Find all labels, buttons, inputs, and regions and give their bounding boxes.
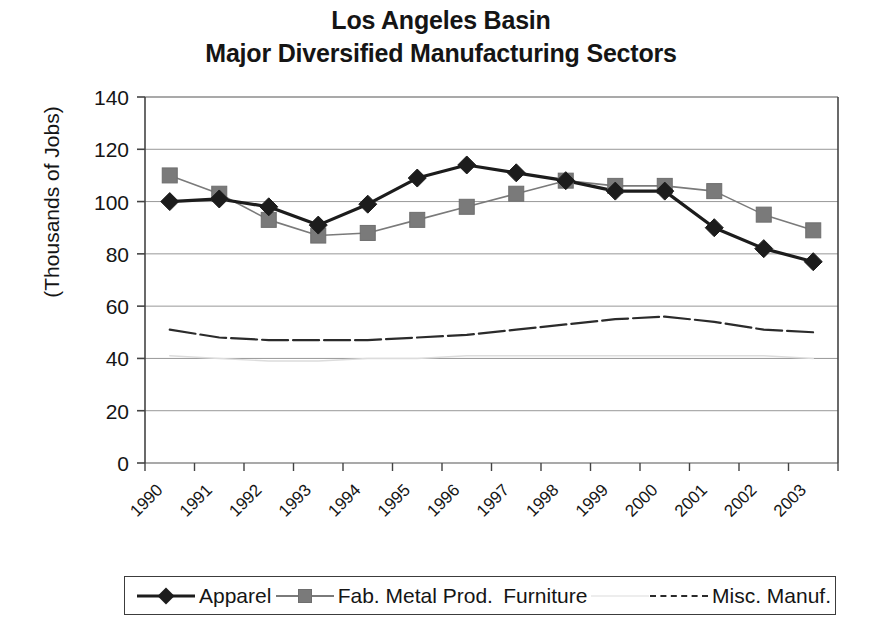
- faint-line-marker-icon: [591, 587, 649, 605]
- data-point-marker: [507, 164, 525, 182]
- x-axis-tick-label: 1995: [374, 480, 414, 520]
- y-axis-tick-label: 40: [106, 347, 129, 370]
- x-axis-tick-label: 2001: [671, 480, 711, 520]
- chart-container: Los Angeles Basin Major Diversified Manu…: [0, 0, 882, 629]
- data-point-marker: [408, 169, 426, 187]
- x-axis-tick-label: 1993: [275, 480, 315, 520]
- x-axis-tick-label: 1991: [176, 480, 216, 520]
- x-axis-tick-label: 1992: [225, 480, 265, 520]
- data-point-marker: [162, 168, 177, 183]
- x-axis-tick-label: 1998: [522, 480, 562, 520]
- legend-item-label: Misc. Manuf.: [708, 584, 835, 608]
- x-axis-tick-label: 1997: [473, 480, 513, 520]
- legend-item-label: Fab. Metal Prod.: [334, 584, 497, 608]
- data-point-marker: [509, 186, 524, 201]
- data-point-marker: [410, 212, 425, 227]
- dashed-line-marker-icon: [650, 587, 708, 605]
- data-point-marker: [360, 225, 375, 240]
- data-point-marker: [459, 199, 474, 214]
- data-point-marker: [806, 223, 821, 238]
- data-point-marker: [359, 195, 377, 213]
- square-marker-icon: [276, 587, 334, 605]
- legend-item-label: Furniture: [499, 584, 591, 608]
- y-axis-tick-label: 0: [117, 452, 129, 475]
- legend-item-label: Apparel: [195, 584, 275, 608]
- data-point-marker: [756, 207, 771, 222]
- y-axis-tick-label: 120: [94, 138, 129, 161]
- legend-item-furniture[interactable]: Furniture: [499, 584, 649, 608]
- data-point-marker: [161, 193, 179, 211]
- y-axis-tick-label: 20: [106, 400, 129, 423]
- gridlines-group: [145, 97, 838, 463]
- x-axis-tick-label: 1999: [572, 480, 612, 520]
- x-axis-tick-label: 1994: [324, 480, 364, 520]
- data-point-marker: [804, 253, 822, 271]
- chart-legend: ApparelFab. Metal Prod.FurnitureMisc. Ma…: [124, 576, 836, 615]
- x-axis-tick-label: 1990: [126, 480, 166, 520]
- legend-item-apparel[interactable]: Apparel: [137, 584, 275, 608]
- plot-area: 140120100806040200 199019911992199319941…: [0, 0, 882, 575]
- series-line-misc-manuf: [170, 317, 814, 341]
- y-axis-ticks-group: 140120100806040200: [94, 86, 145, 475]
- data-point-marker: [755, 240, 773, 258]
- x-axis-ticks-group: [145, 463, 838, 471]
- legend-item-fab-metal-prod[interactable]: Fab. Metal Prod.: [276, 584, 497, 608]
- y-axis-tick-label: 100: [94, 191, 129, 214]
- x-axis-tick-label: 1996: [423, 480, 463, 520]
- data-point-marker: [458, 156, 476, 174]
- legend-item-misc-manuf[interactable]: Misc. Manuf.: [650, 584, 835, 608]
- y-axis-tick-label: 80: [106, 243, 129, 266]
- x-axis-tick-label: 2000: [621, 480, 661, 520]
- y-axis-tick-label: 60: [106, 295, 129, 318]
- diamond-marker-icon: [137, 587, 195, 605]
- x-axis-tick-label: 2002: [720, 480, 760, 520]
- x-axis-tick-labels-group: 1990199119921993199419951996199719981999…: [126, 480, 810, 520]
- data-point-marker: [707, 184, 722, 199]
- x-axis-tick-label: 2003: [770, 480, 810, 520]
- y-axis-tick-label: 140: [94, 86, 129, 109]
